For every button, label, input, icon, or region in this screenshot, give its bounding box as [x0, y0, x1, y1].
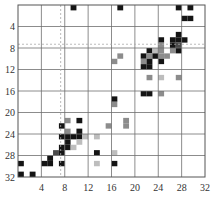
heatmap-cell	[147, 64, 153, 69]
x-tick-label: 8	[62, 182, 67, 193]
y-tick-label: 24	[5, 129, 15, 140]
heatmap-cell	[176, 5, 182, 10]
heatmap-cell	[176, 43, 182, 48]
heatmap-cell	[158, 75, 164, 80]
heatmap-cell	[123, 118, 129, 123]
heatmap-cell	[164, 53, 170, 58]
heatmap-cell	[158, 48, 164, 53]
heatmap-cell	[182, 16, 188, 21]
heatmap-cell	[141, 59, 147, 64]
heatmap-cell	[65, 118, 71, 123]
heatmap-cell	[182, 37, 188, 42]
heatmap-cell	[76, 134, 82, 139]
heatmap-cell	[176, 48, 182, 53]
heatmap-cell	[65, 145, 71, 150]
heatmap-cell	[47, 156, 53, 161]
heatmap-cell	[170, 37, 176, 42]
heatmap-cell	[123, 123, 129, 128]
heatmap-cell	[76, 139, 82, 144]
y-axis-ticks: 48121620242832	[5, 21, 15, 183]
heatmap-cell	[152, 48, 158, 53]
y-tick-label: 32	[5, 172, 15, 183]
y-tick-label: 8	[10, 43, 15, 54]
heatmap-cell	[18, 161, 24, 166]
heatmap-cell	[59, 123, 65, 128]
heatmap-cell	[176, 37, 182, 42]
heatmap-cell	[106, 123, 112, 128]
x-tick-label: 24	[153, 182, 163, 193]
y-tick-label: 20	[5, 107, 15, 118]
x-tick-label: 4	[39, 182, 44, 193]
heatmap-cell	[18, 172, 24, 177]
heatmap-cell	[71, 145, 77, 150]
heatmap-cell	[112, 161, 118, 166]
heatmap-chart: 48121620242832 48121620242832	[0, 0, 217, 197]
heatmap-cell	[30, 172, 36, 177]
heatmap-cell	[47, 161, 53, 166]
heatmap-cell	[117, 5, 123, 10]
heatmap-cell	[59, 150, 65, 155]
heatmap-cell	[158, 43, 164, 48]
heatmap-cell	[112, 96, 118, 101]
heatmap-cell	[112, 59, 118, 64]
heatmap-cell	[76, 118, 82, 123]
heatmap-cell	[187, 16, 193, 21]
heatmap-cell	[65, 139, 71, 144]
heatmap-cell	[141, 91, 147, 96]
heatmap-cell	[53, 150, 59, 155]
y-tick-label: 12	[5, 64, 15, 75]
heatmap-cell	[158, 59, 164, 64]
x-tick-label: 12	[83, 182, 93, 193]
heatmap-cell	[147, 59, 153, 64]
heatmap-cell	[82, 134, 88, 139]
heatmap-cell	[158, 37, 164, 42]
y-tick-label: 28	[5, 150, 15, 161]
x-axis-ticks: 48121620242832	[39, 182, 210, 193]
x-tick-label: 20	[130, 182, 140, 193]
heatmap-cell	[147, 53, 153, 58]
heatmap-cell	[117, 53, 123, 58]
heatmap-cell	[71, 5, 77, 10]
heatmap-cell	[41, 161, 47, 166]
heatmap-cell	[65, 134, 71, 139]
heatmap-cell	[94, 161, 100, 166]
heatmap-cell	[176, 75, 182, 80]
heatmap-cell	[76, 129, 82, 134]
heatmap-cell	[141, 64, 147, 69]
heatmap-cell	[152, 53, 158, 58]
grid-lines	[18, 5, 205, 177]
heatmap-cell	[141, 53, 147, 58]
heatmap-cell	[59, 134, 65, 139]
heatmap-cell	[112, 150, 118, 155]
x-tick-label: 32	[200, 182, 210, 193]
heatmap-cell	[94, 134, 100, 139]
heatmap-cell	[94, 150, 100, 155]
x-tick-label: 28	[177, 182, 187, 193]
heatmap-cell	[158, 53, 164, 58]
heatmap-cell	[170, 48, 176, 53]
heatmap-cell	[71, 134, 77, 139]
heatmap-cell	[176, 32, 182, 37]
heatmap-cell	[65, 129, 71, 134]
heatmap-cell	[147, 91, 153, 96]
heatmap-cell	[170, 43, 176, 48]
heatmap-cell	[59, 161, 65, 166]
heatmap-cell	[112, 102, 118, 107]
heatmap-cell	[158, 91, 164, 96]
heatmap-cell	[147, 75, 153, 80]
y-tick-label: 4	[10, 21, 15, 32]
y-tick-label: 16	[5, 86, 15, 97]
heatmap-cell	[187, 5, 193, 10]
heatmap-cell	[147, 48, 153, 53]
x-tick-label: 16	[107, 182, 117, 193]
heatmap-cell	[59, 145, 65, 150]
